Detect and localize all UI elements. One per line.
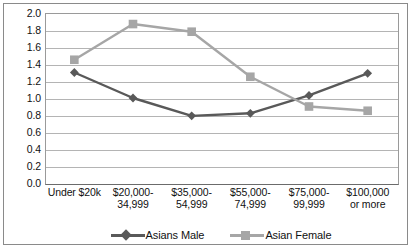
x-axis-tick-line: 34,999 <box>104 199 163 211</box>
data-point-diamond <box>363 69 372 78</box>
x-axis-tick-label: $20,000-34,999 <box>104 187 163 210</box>
data-point-square <box>305 102 314 111</box>
y-axis-tick-label: 1.4 <box>7 59 41 70</box>
legend-swatch <box>230 229 264 241</box>
x-axis-tick-line: $100,000 <box>338 187 397 199</box>
series-male <box>70 68 372 120</box>
data-point-diamond <box>129 94 138 103</box>
x-axis-tick-label: $100,000or more <box>338 187 397 210</box>
y-axis-tick-label: 0.4 <box>7 144 41 155</box>
legend-square-icon <box>241 231 250 240</box>
x-axis-tick-label: $75,000-99,999 <box>280 187 339 210</box>
data-point-diamond <box>187 111 196 120</box>
data-point-square <box>129 20 138 29</box>
x-axis: Under $20k$20,000-34,999$35,000-54,999$5… <box>45 187 397 223</box>
y-axis-tick-label: 0.0 <box>7 178 41 189</box>
x-axis-tick-line: Under $20k <box>45 187 104 199</box>
legend-item[interactable]: Asian Female <box>230 229 331 241</box>
y-axis-tick-label: 2.0 <box>7 8 41 19</box>
x-axis-tick-line: 54,999 <box>162 199 221 211</box>
series-female <box>70 20 372 115</box>
y-axis-tick-label: 0.8 <box>7 110 41 121</box>
x-axis-tick-line: 74,999 <box>221 199 280 211</box>
y-axis-tick-label: 0.6 <box>7 127 41 138</box>
y-axis: 2.01.81.61.41.21.00.80.60.40.20.0 <box>4 4 41 194</box>
y-axis-tick-label: 1.2 <box>7 76 41 87</box>
chart-frame: 2.01.81.61.41.21.00.80.60.40.20.0 Under … <box>3 3 408 245</box>
y-axis-tick-label: 1.0 <box>7 93 41 104</box>
x-axis-tick-line: $35,000- <box>162 187 221 199</box>
data-point-diamond <box>246 109 255 118</box>
legend-diamond-icon <box>120 229 131 240</box>
series-line <box>74 24 367 111</box>
x-axis-tick-line: 99,999 <box>280 199 339 211</box>
data-point-square <box>246 72 255 81</box>
legend-item[interactable]: Asians Male <box>111 229 205 241</box>
x-axis-tick-label: $55,000-74,999 <box>221 187 280 210</box>
chart-legend: Asians MaleAsian Female <box>45 226 397 244</box>
x-axis-tick-line: $20,000- <box>104 187 163 199</box>
data-point-square <box>363 106 372 115</box>
y-axis-tick-label: 0.2 <box>7 161 41 172</box>
legend-label: Asians Male <box>146 230 205 241</box>
y-axis-tick-label: 1.6 <box>7 42 41 53</box>
legend-label: Asian Female <box>265 230 331 241</box>
legend-swatch <box>111 229 145 241</box>
data-point-diamond <box>70 68 79 77</box>
y-axis-tick-label: 1.8 <box>7 25 41 36</box>
chart-plot-wrapper: 2.01.81.61.41.21.00.80.60.40.20.0 Under … <box>4 4 409 246</box>
x-axis-tick-label: Under $20k <box>45 187 104 199</box>
data-point-square <box>187 27 196 36</box>
series-line <box>74 73 367 116</box>
data-series-layer <box>45 13 397 183</box>
x-axis-tick-line: $75,000- <box>280 187 339 199</box>
gridline <box>46 184 398 185</box>
data-point-square <box>70 55 79 64</box>
x-axis-tick-line: $55,000- <box>221 187 280 199</box>
x-axis-tick-line: or more <box>338 199 397 211</box>
x-axis-tick-label: $35,000-54,999 <box>162 187 221 210</box>
data-point-diamond <box>305 91 314 100</box>
